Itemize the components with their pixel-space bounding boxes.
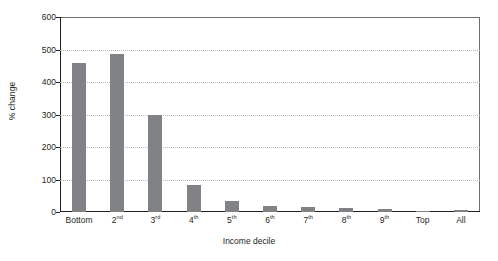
bar-chart: % change 0100200300400500600 Bottom2nd3r… bbox=[0, 0, 498, 261]
x-axis-tick-label: 9th bbox=[380, 215, 389, 225]
bar-slot bbox=[175, 17, 213, 212]
y-axis-title: % change bbox=[7, 61, 17, 141]
bar[interactable] bbox=[263, 206, 277, 212]
bar[interactable] bbox=[301, 207, 315, 212]
bar[interactable] bbox=[110, 54, 124, 212]
bar[interactable] bbox=[72, 63, 86, 212]
bar[interactable] bbox=[187, 185, 201, 212]
y-axis-tick bbox=[56, 212, 60, 213]
x-axis-tick-label: All bbox=[456, 215, 465, 225]
bar[interactable] bbox=[148, 115, 162, 213]
x-axis-tick-label: 2nd bbox=[112, 215, 123, 225]
bar-slot bbox=[442, 17, 480, 212]
bar-slot bbox=[251, 17, 289, 212]
bar[interactable] bbox=[378, 209, 392, 212]
y-axis-tick-label: 400 bbox=[22, 77, 56, 87]
bar-slot bbox=[404, 17, 442, 212]
bar-series bbox=[60, 17, 480, 212]
x-axis-tick-label: 5th bbox=[227, 215, 236, 225]
y-axis-tick-label: 100 bbox=[22, 175, 56, 185]
bar-slot bbox=[60, 17, 98, 212]
bar-slot bbox=[365, 17, 403, 212]
x-axis-tick-label: 3rd bbox=[151, 215, 161, 225]
bar-slot bbox=[136, 17, 174, 212]
y-axis-tick-label: 200 bbox=[22, 142, 56, 152]
x-axis-title: Income decile bbox=[0, 236, 498, 246]
x-axis-tick-labels: Bottom2nd3rd4th5th6th7th8th9thTopAll bbox=[60, 215, 480, 231]
bar-slot bbox=[289, 17, 327, 212]
x-axis-tick-label: Bottom bbox=[66, 215, 93, 225]
x-axis-tick-label: 6th bbox=[265, 215, 274, 225]
bar-slot bbox=[213, 17, 251, 212]
bar[interactable] bbox=[416, 211, 430, 212]
y-axis-tick-label: 500 bbox=[22, 45, 56, 55]
plot-area bbox=[60, 17, 480, 212]
bar[interactable] bbox=[454, 210, 468, 212]
bar[interactable] bbox=[339, 208, 353, 212]
y-axis-tick-label: 0 bbox=[22, 207, 56, 217]
x-axis-tick-label: 7th bbox=[303, 215, 312, 225]
x-axis-tick-label: Top bbox=[416, 215, 430, 225]
x-axis-tick-label: 8th bbox=[342, 215, 351, 225]
bar-slot bbox=[327, 17, 365, 212]
y-axis-tick-labels: 0100200300400500600 bbox=[22, 17, 56, 212]
bar-slot bbox=[98, 17, 136, 212]
y-axis-tick-label: 600 bbox=[22, 12, 56, 22]
y-axis-tick-label: 300 bbox=[22, 110, 56, 120]
bar[interactable] bbox=[225, 201, 239, 212]
x-axis-tick-label: 4th bbox=[189, 215, 198, 225]
